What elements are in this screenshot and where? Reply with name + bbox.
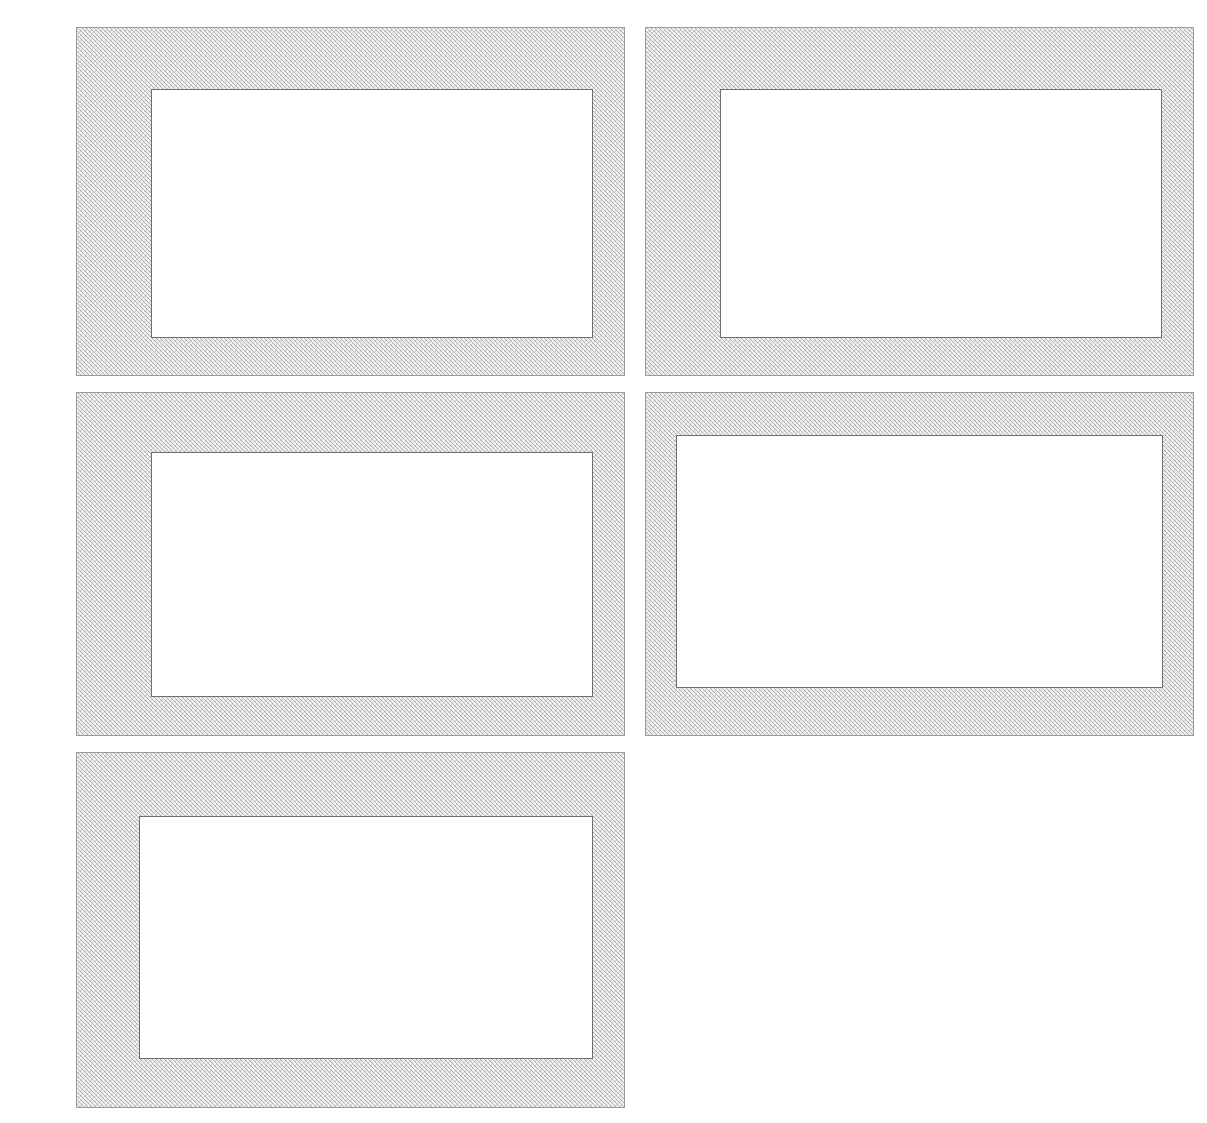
plot-frame [139,816,593,1059]
plot-frame [151,89,593,338]
panel-residuals-vs-7day-psi [76,392,625,736]
plot-frame [676,435,1163,688]
panel-residuals-vs-fitted [76,27,625,376]
plot-frame [720,89,1162,338]
panel-normal-probability-plot [76,752,625,1108]
panel-residuals-vs-slump [645,27,1194,376]
plot-frame [151,452,593,697]
panel-boxplot-of-residuals [645,392,1194,736]
